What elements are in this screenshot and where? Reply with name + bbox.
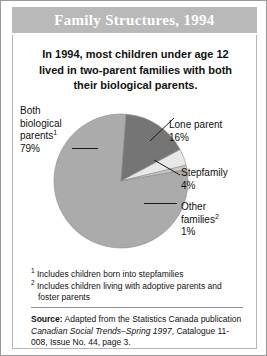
label-step-name: Stepfamily <box>181 167 228 180</box>
label-both-value: 79% <box>20 143 62 156</box>
leader-line-both <box>72 148 98 149</box>
footnote-marker-2: 2 <box>215 212 219 219</box>
label-both-line1: Both <box>20 105 62 118</box>
figure-header-band: Family Structures, 1994 <box>12 7 257 33</box>
label-lone-value: 16% <box>169 132 222 145</box>
label-other-value: 1% <box>181 226 219 239</box>
figure-title: Family Structures, 1994 <box>54 12 214 29</box>
divider-rule <box>31 307 243 308</box>
label-other-line1: Other <box>181 201 219 214</box>
source-citation: Source: Adapted from the Statistics Cana… <box>31 314 245 349</box>
source-text-1: Adapted from the Statistics Canada publi… <box>65 314 242 324</box>
leader-line-stepfamily <box>153 159 181 177</box>
footnote-marker-1: 1 <box>53 129 57 136</box>
pie-chart: Both biological parents1 79% Lone parent… <box>13 97 256 265</box>
figure-panel: In 1994, most children under age 12 live… <box>12 35 257 349</box>
headline-text: In 1994, most children under age 12 live… <box>29 47 242 94</box>
source-label: Source: <box>31 314 63 324</box>
label-both-line3: parents1 <box>20 130 62 143</box>
source-publication: Canadian Social Trends–Spring 1997 <box>31 326 172 336</box>
label-other-line2: families2 <box>181 214 219 227</box>
footnotes: 1 Includes children born into stepfamili… <box>31 269 243 304</box>
label-step-value: 4% <box>181 180 228 193</box>
label-other-families: Other families2 1% <box>181 201 219 239</box>
figure-container: Family Structures, 1994 In 1994, most ch… <box>0 0 267 356</box>
label-lone-name: Lone parent <box>169 119 222 132</box>
label-lone-parent: Lone parent 16% <box>169 119 222 144</box>
label-stepfamily: Stepfamily 4% <box>181 167 228 192</box>
leader-line-other <box>144 203 177 204</box>
footnote-2: 2 Includes children living with adoptive… <box>31 281 243 304</box>
footnote-1: 1 Includes children born into stepfamili… <box>31 269 243 281</box>
label-both-biological-parents: Both biological parents1 79% <box>20 105 62 155</box>
